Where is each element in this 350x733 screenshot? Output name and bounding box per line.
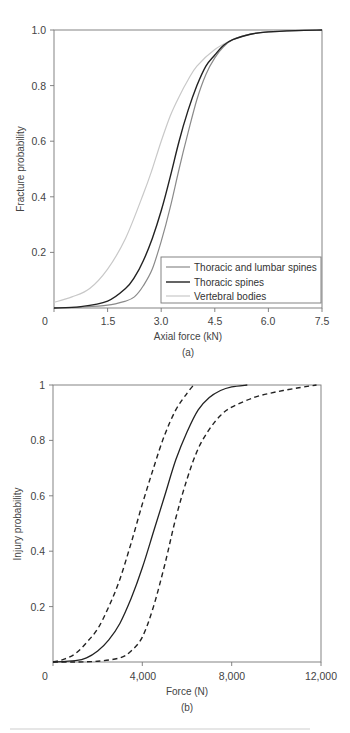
chart-a-xtick-4.5: 4.5 (208, 315, 223, 327)
chart-a-xtick-7.5: 7.5 (315, 315, 330, 327)
chart-a-xtick-1.5: 1.5 (101, 315, 116, 327)
chart-b-xtick-4000: 4,000 (130, 670, 156, 682)
series-mean-solid-line (53, 385, 247, 662)
chart-b-y-ticks (49, 385, 53, 607)
chart-a: 1.0 0.8 0.6 0.4 0.2 0 1.5 3.0 4.5 6.0 7.… (15, 24, 329, 358)
chart-b-xtick-8000: 8,000 (219, 670, 245, 682)
chart-b-y-axis-title: Injury probability (12, 488, 23, 561)
caption-fragment (10, 728, 310, 730)
chart-b-ytick-0.2: 0.2 (30, 601, 45, 613)
legend-label-thoracic-spines: Thoracic spines (194, 277, 264, 288)
chart-b-x-axis-title: Force (N) (166, 686, 208, 697)
chart-b-ytick-0.8: 0.8 (30, 434, 45, 446)
chart-a-xtick-6.0: 6.0 (261, 315, 276, 327)
chart-b-plot-frame (53, 385, 321, 662)
chart-b-xtick-0: 0 (42, 670, 48, 682)
chart-b-xtick-12000: 12,000 (305, 670, 337, 682)
chart-a-ytick-0.2: 0.2 (31, 246, 46, 258)
chart-a-xtick-3.0: 3.0 (154, 315, 169, 327)
legend-label-vertebral-bodies: Vertebral bodies (194, 291, 266, 302)
chart-b-panel-label: (b) (181, 702, 193, 713)
chart-a-x-ticks (54, 308, 322, 312)
chart-a-ytick-0.4: 0.4 (31, 191, 46, 203)
chart-a-panel-label: (a) (182, 347, 194, 358)
series-upper-bound-dashed-line (53, 385, 317, 662)
legend-label-thoracic-lumbar: Thoracic and lumbar spines (194, 262, 317, 273)
series-lower-bound-dashed-line (53, 385, 194, 662)
chart-a-xtick-0: 0 (42, 315, 48, 327)
chart-a-legend: Thoracic and lumbar spines Thoracic spin… (161, 257, 321, 303)
chart-a-y-axis-title: Fracture probability (15, 126, 26, 212)
chart-a-ytick-0.6: 0.6 (31, 135, 46, 147)
figure: 1.0 0.8 0.6 0.4 0.2 0 1.5 3.0 4.5 6.0 7.… (0, 0, 350, 733)
chart-b-ytick-1: 1 (39, 379, 45, 391)
chart-b: 1 0.8 0.6 0.4 0.2 0 4,000 8,000 12,000 F… (12, 379, 337, 713)
chart-b-x-ticks (53, 662, 321, 666)
chart-a-ytick-1.0: 1.0 (31, 24, 46, 36)
chart-b-ytick-0.6: 0.6 (30, 490, 45, 502)
chart-a-ytick-0.8: 0.8 (31, 80, 46, 92)
chart-a-x-axis-title: Axial force (kN) (154, 331, 222, 342)
chart-b-ytick-0.4: 0.4 (30, 545, 45, 557)
chart-a-y-ticks (50, 30, 54, 252)
